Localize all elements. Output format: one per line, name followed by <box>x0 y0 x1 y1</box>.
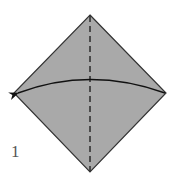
origami-diagram <box>0 0 178 184</box>
step-number: 1 <box>11 143 20 160</box>
